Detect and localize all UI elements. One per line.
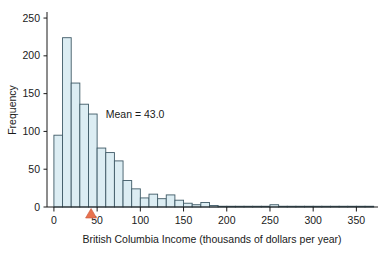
histogram-bar	[63, 38, 72, 207]
y-tick-label: 150	[22, 87, 40, 99]
histogram-figure: 050100150200250 050100150200250300350 Fr…	[0, 0, 384, 254]
y-tick-label: 250	[22, 12, 40, 24]
histogram-bar	[80, 104, 89, 207]
histogram-bar	[140, 198, 149, 207]
histogram-bar	[54, 135, 63, 207]
histogram-bar	[158, 199, 167, 207]
x-tick-label: 0	[51, 214, 57, 226]
mean-label: Mean = 43.0	[106, 108, 165, 120]
x-tick-label: 250	[261, 214, 279, 226]
y-axis-title: Frequency	[6, 84, 18, 134]
chart-annotations: Mean = 43.0	[106, 108, 165, 120]
x-tick-label: 350	[348, 214, 366, 226]
histogram-bar	[106, 153, 115, 207]
histogram-bar	[166, 195, 175, 207]
x-tick-label: 150	[175, 214, 193, 226]
histogram-bar	[201, 202, 210, 207]
histogram-bar	[149, 194, 158, 207]
histogram-bar	[88, 114, 97, 207]
y-tick-label: 200	[22, 49, 40, 61]
histogram-plot: 050100150200250 050100150200250300350 Fr…	[0, 0, 384, 254]
histogram-bar	[123, 181, 132, 207]
y-tick-label: 50	[28, 163, 40, 175]
x-tick-label: 300	[304, 214, 322, 226]
histogram-bar	[184, 203, 193, 207]
histogram-bar	[97, 148, 106, 207]
histogram-bar	[132, 189, 141, 207]
histogram-bar	[71, 83, 80, 207]
x-axis-title: British Columbia Income (thousands of do…	[82, 233, 341, 245]
histogram-bar	[175, 200, 184, 207]
y-tick-label: 100	[22, 125, 40, 137]
x-tick-label: 100	[132, 214, 150, 226]
x-tick-label: 200	[218, 214, 236, 226]
histogram-bar	[114, 161, 123, 207]
y-tick-label: 0	[34, 201, 40, 213]
